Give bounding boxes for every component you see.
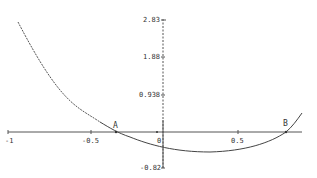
function-plot: -1 -0.5 0.5 0 2.83 1.88 0.938 -0.82 A B <box>0 0 317 178</box>
origin-label: 0 <box>157 137 161 145</box>
y-tick-label-188: 1.88 <box>143 53 160 61</box>
point-b-marker <box>285 131 287 133</box>
x-tick-label-neg05: -0.5 <box>82 137 99 145</box>
x-tick-label-05: 0.5 <box>231 137 244 145</box>
point-a-marker <box>115 131 117 133</box>
point-a-label: A <box>113 121 118 130</box>
y-tick-label-bottom: -0.82 <box>140 164 161 172</box>
origin-marker <box>156 131 158 133</box>
y-tick-label-0938: 0.938 <box>139 91 160 99</box>
y-tick-label-top: 2.83 <box>143 16 160 24</box>
function-curve-dashed <box>18 22 100 122</box>
point-b-label: B <box>283 119 288 128</box>
x-tick-label-neg1: -1 <box>5 137 13 145</box>
